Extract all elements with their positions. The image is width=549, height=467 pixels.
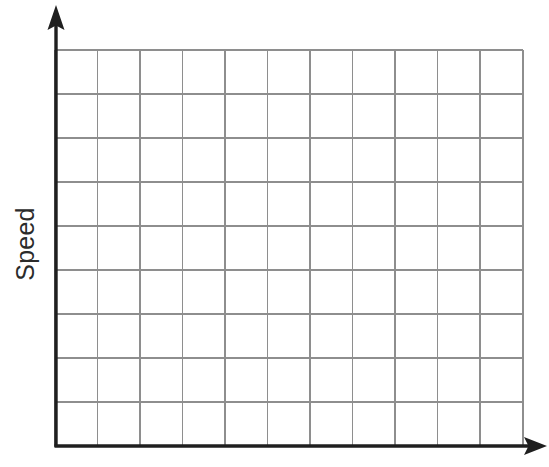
chart-canvas xyxy=(0,0,549,467)
chart-background xyxy=(0,0,549,467)
chart-container: Speed xyxy=(0,0,549,467)
